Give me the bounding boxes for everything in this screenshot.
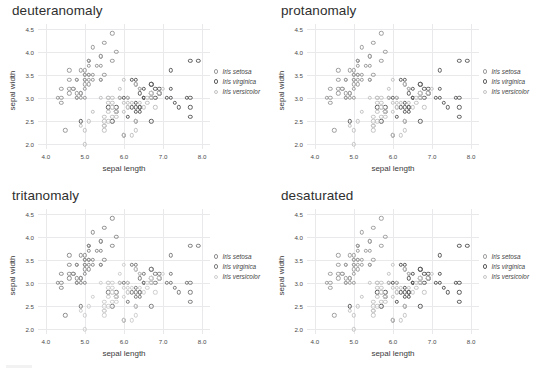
data-point <box>352 96 356 100</box>
data-point <box>406 101 410 105</box>
data-point <box>75 96 79 100</box>
x-axis-label: sepal length <box>38 349 210 358</box>
x-tick-label: 4.0 <box>42 338 51 345</box>
data-point <box>67 91 71 95</box>
data-point <box>410 272 414 276</box>
y-axis-label: sepal width <box>277 246 286 306</box>
data-point <box>130 133 134 137</box>
data-point <box>149 119 153 123</box>
legend-item[interactable]: Iris setosa <box>483 253 529 260</box>
data-point <box>102 313 106 317</box>
gridline-horizontal <box>38 144 210 145</box>
data-point <box>352 82 356 86</box>
legend-item[interactable]: Iris setosa <box>214 68 260 75</box>
legend-item-label: Iris virginica <box>491 78 525 85</box>
gridline-vertical <box>393 24 394 149</box>
data-point <box>379 244 383 248</box>
data-point <box>371 119 375 123</box>
y-tick-label: 3.0 <box>285 280 303 287</box>
data-point <box>110 304 114 308</box>
chart-panel-protanomaly: protanomaly4.05.06.07.08.02.02.53.03.54.… <box>269 0 539 185</box>
data-point <box>102 124 106 128</box>
data-point <box>149 304 153 308</box>
data-point <box>367 248 371 252</box>
data-point <box>336 262 340 266</box>
data-point <box>173 101 177 105</box>
y-tick-label: 2.0 <box>16 141 34 148</box>
data-point <box>403 295 407 299</box>
legend-item[interactable]: Iris virginica <box>214 263 260 270</box>
data-point <box>336 91 340 95</box>
legend-item[interactable]: Iris versicolor <box>483 273 529 280</box>
data-point <box>188 299 192 303</box>
data-point <box>336 68 340 72</box>
legend-item[interactable]: Iris versicolor <box>214 88 260 95</box>
gridline-horizontal <box>38 121 210 122</box>
legend-item[interactable]: Iris setosa <box>214 253 260 260</box>
data-point <box>83 128 87 132</box>
data-point <box>134 119 138 123</box>
data-point <box>122 295 126 299</box>
data-point <box>399 286 403 290</box>
legend-item[interactable]: Iris setosa <box>483 68 529 75</box>
data-point <box>465 244 469 248</box>
legend-item[interactable]: Iris versicolor <box>483 88 529 95</box>
data-point <box>371 304 375 308</box>
data-point <box>379 304 383 308</box>
data-point <box>118 96 122 100</box>
data-point <box>418 82 422 86</box>
data-point <box>196 244 200 248</box>
y-axis-label: sepal width <box>8 61 17 121</box>
data-point <box>67 262 71 266</box>
data-point <box>102 309 106 313</box>
data-point <box>83 272 87 276</box>
data-point <box>130 318 134 322</box>
data-point <box>371 128 375 132</box>
data-point <box>457 281 461 285</box>
y-tick-label: 2.0 <box>285 326 303 333</box>
gridline-vertical <box>315 24 316 149</box>
gridline-vertical <box>471 24 472 149</box>
data-point <box>59 281 63 285</box>
data-point <box>149 267 153 271</box>
data-point <box>98 262 102 266</box>
data-point <box>406 87 410 91</box>
legend-item[interactable]: Iris virginica <box>483 263 529 270</box>
data-point <box>403 304 407 308</box>
data-point <box>328 286 332 290</box>
legend-item[interactable]: Iris virginica <box>214 78 260 85</box>
data-point <box>87 248 91 252</box>
data-point <box>352 87 356 91</box>
data-point <box>422 272 426 276</box>
data-point <box>371 299 375 303</box>
gridline-horizontal <box>307 29 479 30</box>
legend-item[interactable]: Iris versicolor <box>214 273 260 280</box>
data-point <box>98 63 102 67</box>
data-point <box>134 105 138 109</box>
legend-item[interactable]: Iris virginica <box>483 78 529 85</box>
data-point <box>71 87 75 91</box>
data-point <box>391 133 395 137</box>
data-point <box>79 91 83 95</box>
data-point <box>391 262 395 266</box>
data-point <box>465 59 469 63</box>
y-tick-label: 2.5 <box>285 118 303 125</box>
data-point <box>395 96 399 100</box>
data-point <box>137 286 141 290</box>
data-point <box>91 262 95 266</box>
data-point <box>457 299 461 303</box>
data-point <box>387 281 391 285</box>
data-point <box>134 110 138 114</box>
data-point <box>336 272 340 276</box>
data-point <box>457 114 461 118</box>
data-point <box>426 276 430 280</box>
gridline-horizontal <box>38 29 210 30</box>
data-point <box>83 142 87 146</box>
data-point <box>188 281 192 285</box>
gridline-vertical <box>471 209 472 334</box>
legend-marker-icon <box>483 264 487 268</box>
legend-item-label: Iris versicolor <box>491 88 529 95</box>
legend-item-label: Iris versicolor <box>222 273 260 280</box>
data-point <box>137 276 141 280</box>
data-point <box>371 40 375 44</box>
